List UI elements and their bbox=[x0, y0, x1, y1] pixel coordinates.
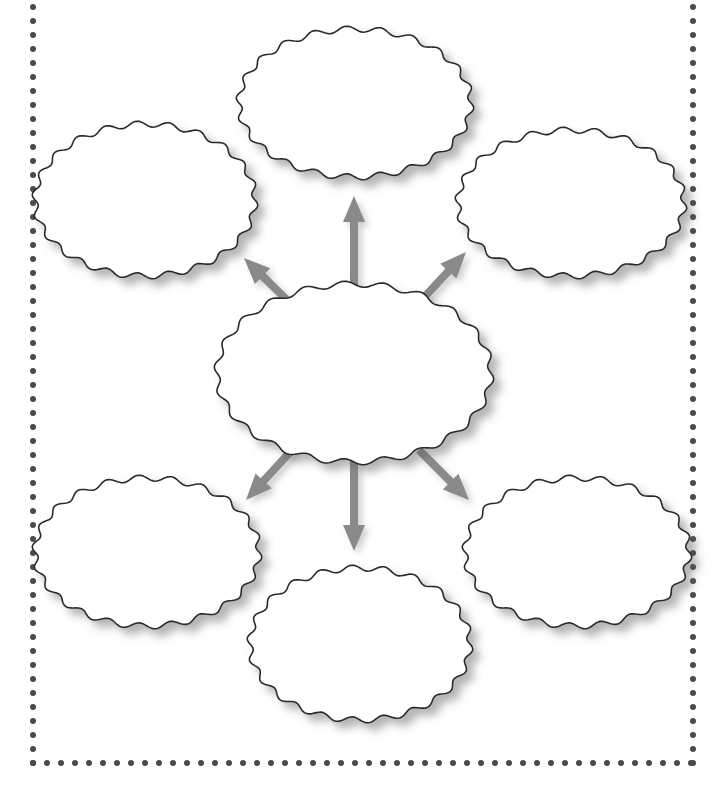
graphic-organizer-diagram bbox=[0, 0, 721, 793]
worksheet-page bbox=[0, 0, 721, 793]
oval-layer bbox=[32, 26, 691, 723]
oval-top-left[interactable] bbox=[32, 121, 257, 279]
arrow-center-to-bottom-center bbox=[343, 460, 365, 551]
arrow-center-to-top-center bbox=[343, 196, 365, 288]
center-oval[interactable] bbox=[214, 281, 493, 465]
oval-bottom-right[interactable] bbox=[462, 475, 691, 629]
arrow-center-to-bottom-left bbox=[246, 447, 295, 500]
oval-top-right[interactable] bbox=[455, 127, 686, 279]
oval-top-center[interactable] bbox=[236, 26, 473, 180]
arrow-center-to-bottom-right bbox=[416, 447, 469, 500]
oval-bottom-left[interactable] bbox=[32, 475, 261, 629]
oval-bottom-center[interactable] bbox=[247, 565, 472, 723]
